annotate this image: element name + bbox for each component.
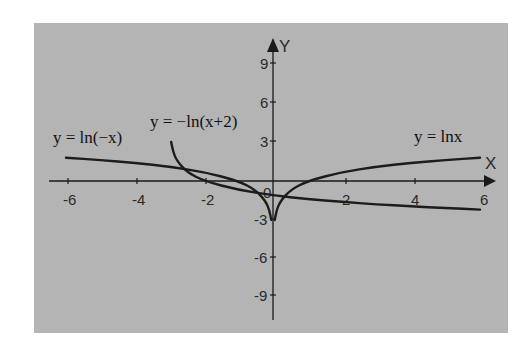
svg-text:-4: -4 — [132, 191, 145, 208]
svg-text:2: 2 — [342, 191, 350, 208]
svg-text:6: 6 — [260, 94, 268, 111]
label-ln-neg-x: y = ln(−x) — [53, 128, 122, 147]
y-axis-label: Y — [279, 37, 290, 56]
label-ln-x: y = lnx — [414, 127, 463, 146]
svg-text:-6: -6 — [63, 191, 76, 208]
plot-background — [34, 23, 508, 333]
svg-text:9: 9 — [260, 55, 268, 72]
label-neg-ln-x-plus-2: y = −ln(x+2) — [150, 112, 237, 131]
svg-text:-9: -9 — [254, 287, 267, 304]
svg-text:-2: -2 — [201, 191, 214, 208]
chart-plot: X Y -6 -4 -2 2 4 6 0 9 6 3 -3 -6 -9 — [0, 0, 532, 352]
svg-text:3: 3 — [260, 133, 268, 150]
x-axis-label: X — [485, 154, 496, 173]
svg-text:6: 6 — [480, 191, 488, 208]
svg-text:-3: -3 — [254, 211, 267, 228]
svg-text:-6: -6 — [254, 249, 267, 266]
